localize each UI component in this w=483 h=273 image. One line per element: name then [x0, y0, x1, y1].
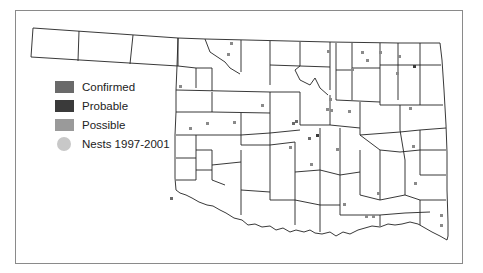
- confirmed-swatch-icon: [55, 81, 74, 93]
- possible-markers: [179, 42, 443, 227]
- legend-item-possible: Possible: [55, 115, 170, 134]
- legend-item-probable: Probable: [55, 96, 170, 115]
- probable-swatch-icon: [55, 100, 74, 112]
- legend-label: Nests 1997-2001: [82, 138, 170, 150]
- panhandle-outline: [31, 28, 178, 66]
- nest-circle-icon: [57, 137, 71, 151]
- legend-label: Confirmed: [82, 81, 135, 93]
- map-legend: Confirmed Probable Possible Nests 1997-2…: [55, 77, 170, 153]
- legend-label: Possible: [82, 119, 125, 131]
- confirmed-markers: [170, 120, 311, 200]
- legend-label: Probable: [82, 100, 128, 112]
- state-outline: [175, 38, 448, 240]
- legend-item-nests: Nests 1997-2001: [55, 134, 170, 153]
- possible-swatch-icon: [55, 119, 74, 131]
- legend-item-confirmed: Confirmed: [55, 77, 170, 96]
